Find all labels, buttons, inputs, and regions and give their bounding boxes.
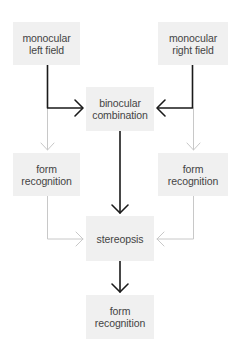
node-label: recognition: [21, 175, 71, 187]
node-label: monocular: [169, 32, 217, 44]
node-label: form: [168, 163, 218, 175]
node-label: right field: [169, 44, 217, 56]
node-label: binocular: [92, 97, 148, 109]
node-label: form: [95, 305, 145, 317]
node-form-recognition-bottom: formrecognition: [86, 295, 154, 339]
node-label: recognition: [168, 175, 218, 187]
edge-form-left-to-stereopsis: [48, 196, 84, 239]
node-label: monocular: [22, 32, 70, 44]
node-binocular-combination: binocularcombination: [86, 87, 154, 131]
node-label: left field: [22, 44, 70, 56]
node-label: combination: [92, 109, 148, 121]
node-label: recognition: [95, 317, 145, 329]
node-label: form: [21, 163, 71, 175]
node-monocular-left-field: monocularleft field: [13, 22, 80, 65]
node-stereopsis: stereopsis: [86, 216, 154, 261]
node-form-recognition-right: formrecognition: [158, 153, 228, 196]
node-form-recognition-left: formrecognition: [13, 153, 80, 196]
edge-form-right-to-stereopsis: [157, 196, 194, 239]
node-label: stereopsis: [97, 233, 144, 245]
node-monocular-right-field: monocularright field: [158, 22, 228, 65]
